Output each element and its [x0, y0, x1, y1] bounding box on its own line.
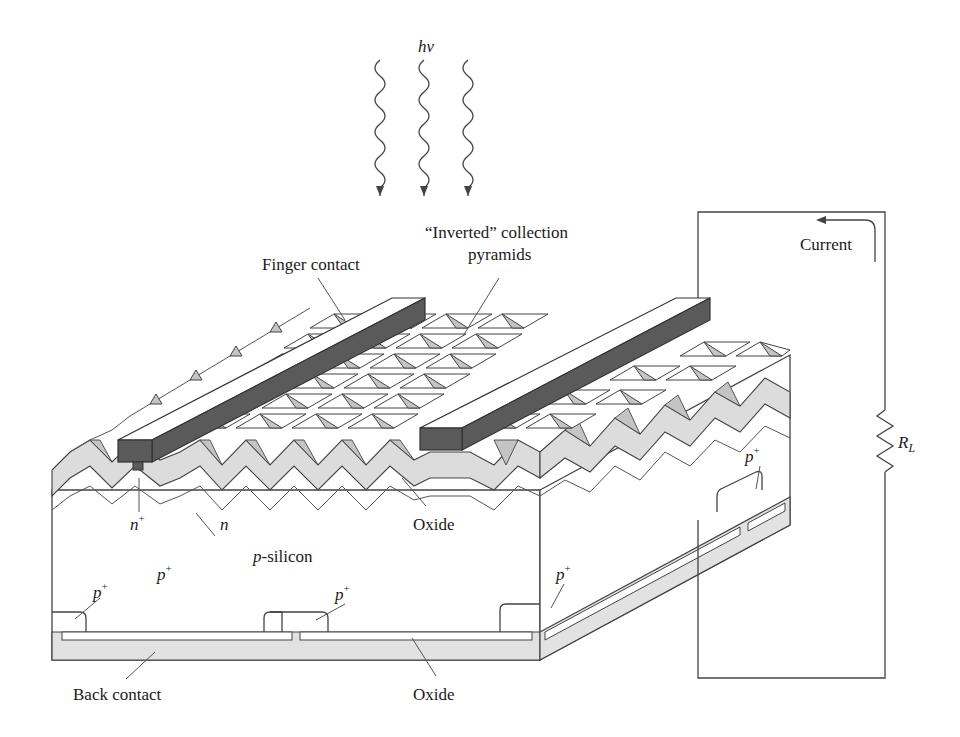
photon-label: hν — [418, 37, 435, 56]
solar-cell-diagram: hν — [0, 0, 960, 737]
load-resistor-label: RL — [897, 433, 915, 455]
oxide-bottom-label: Oxide — [413, 685, 455, 704]
back-contact-label: Back contact — [73, 685, 162, 704]
rear-oxide-strip — [300, 632, 532, 640]
n-layer-label: n — [220, 515, 229, 534]
oxide-top-label: Oxide — [413, 515, 455, 534]
p-silicon-label: p-silicon — [252, 547, 313, 566]
inverted-pyramids-label-line1: “Inverted” collection — [425, 223, 569, 242]
rear-oxide-strip — [62, 632, 292, 640]
finger-contact-label: Finger contact — [262, 255, 360, 274]
load-resistor-icon — [877, 410, 893, 472]
inverted-pyramids-label-line2: pyramids — [468, 245, 531, 264]
photon-arrows — [375, 60, 473, 196]
current-label: Current — [800, 235, 852, 254]
